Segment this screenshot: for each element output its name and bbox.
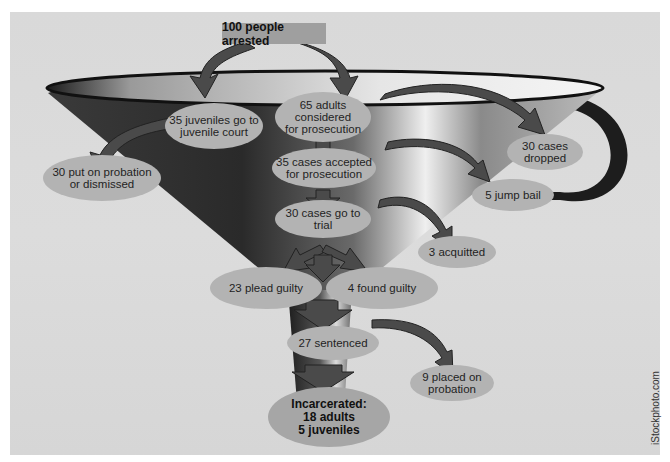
node-adults-label: 65 adults considered for prosecution <box>285 99 361 135</box>
node-placed-probation: 9 placed on probation <box>410 365 494 401</box>
node-plead-guilty: 23 plead guilty <box>210 267 322 309</box>
node-found-guilty: 4 found guilty <box>326 267 438 309</box>
arrested-box: 100 people arrested <box>222 23 326 44</box>
node-cases-dropped-label: 30 cases dropped <box>522 140 568 164</box>
node-jump-bail: 5 jump bail <box>472 179 554 211</box>
node-sentenced: 27 sentenced <box>287 326 379 360</box>
node-adults: 65 adults considered for prosecution <box>275 92 371 142</box>
node-acquitted-label: 3 acquitted <box>429 246 485 258</box>
node-probation-dismissed: 30 put on probation or dismissed <box>43 155 161 201</box>
node-cases-dropped: 30 cases dropped <box>507 134 583 170</box>
node-cases-accepted-label: 35 cases accepted for prosecution <box>276 156 372 180</box>
node-trial-label: 30 cases go to trial <box>286 207 361 231</box>
node-placed-probation-label: 9 placed on probation <box>422 371 481 395</box>
arrested-label: 100 people arrested <box>222 20 326 48</box>
node-probation-dismissed-label: 30 put on probation or dismissed <box>52 166 151 190</box>
node-plead-guilty-label: 23 plead guilty <box>229 282 303 294</box>
node-sentenced-label: 27 sentenced <box>298 337 367 349</box>
node-trial: 30 cases go to trial <box>275 200 371 238</box>
node-juveniles: 35 juveniles go to juvenile court <box>165 103 263 149</box>
node-found-guilty-label: 4 found guilty <box>348 282 416 294</box>
node-cases-accepted: 35 cases accepted for prosecution <box>272 148 376 188</box>
node-incarcerated: Incarcerated: 18 adults 5 juveniles <box>268 387 390 447</box>
node-jump-bail-label: 5 jump bail <box>485 189 541 201</box>
photo-credit: iStockphoto.com <box>650 371 661 445</box>
node-acquitted: 3 acquitted <box>418 236 496 268</box>
node-juveniles-label: 35 juveniles go to juvenile court <box>169 114 259 138</box>
node-incarcerated-label: Incarcerated: 18 adults 5 juveniles <box>291 398 366 437</box>
